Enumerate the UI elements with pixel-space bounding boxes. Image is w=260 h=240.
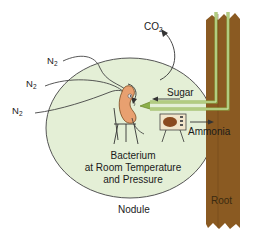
n2-label-1: N2 [47,56,58,68]
nodule-label: Nodule [118,205,150,215]
bacterium-caption: Bacterium at Room Temperature and Pressu… [78,150,188,186]
n2-label-3: N2 [12,106,23,118]
sugar-label: Sugar [167,88,194,98]
n2-label-2: N2 [26,79,37,91]
bacterium-caption-line-3: and Pressure [78,174,188,186]
root-label: Root [211,196,232,206]
bacterium-caption-line-2: at Room Temperature [78,162,188,174]
bacterium-caption-line-1: Bacterium [78,150,188,162]
ammonia-label: Ammonia [188,127,230,137]
co2-label: CO2 [144,22,163,34]
